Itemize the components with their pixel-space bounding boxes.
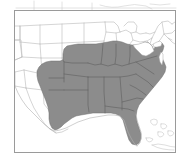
- map-canvas: [0, 0, 189, 159]
- outside-frame-lines: [16, 1, 176, 10]
- range-map-figure: [0, 0, 189, 159]
